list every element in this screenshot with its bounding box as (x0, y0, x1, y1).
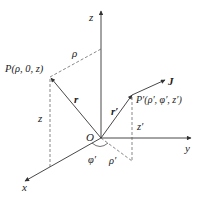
cylindrical-coordinate-diagram: z y x O P(ρ, 0, z) P′(ρ′, φ′, z′) r r′ J… (0, 0, 204, 199)
j-vector-label: J (167, 75, 174, 87)
x-axis-label: x (21, 181, 27, 193)
r-vector-label: r (74, 93, 79, 105)
rho-label: ρ (71, 47, 77, 59)
y-axis-label: y (184, 142, 190, 154)
r-prime-vector-label: r′ (111, 105, 118, 117)
r-vector (51, 78, 101, 138)
phi-prime-arc (92, 143, 108, 147)
j-vector (132, 80, 165, 95)
rho-prime-label: ρ′ (108, 155, 117, 166)
point-p-label: P(ρ, 0, z) (4, 63, 44, 75)
z-label: z (37, 112, 43, 124)
z-prime-label: z′ (136, 121, 144, 132)
z-axis-label: z (88, 11, 94, 23)
rho-prime-dashed-line (101, 138, 132, 161)
point-p-prime-label: P′(ρ′, φ′, z′) (135, 94, 182, 106)
origin-label: O (86, 131, 94, 143)
phi-prime-label: φ′ (88, 154, 97, 165)
